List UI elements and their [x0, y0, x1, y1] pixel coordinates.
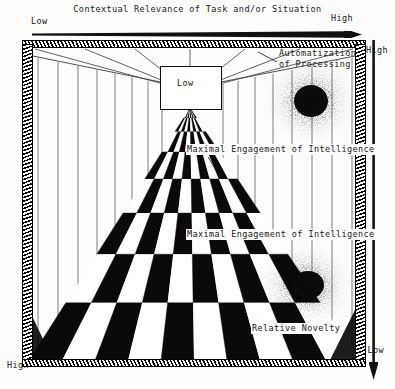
maximal-engagement-label-lower: Maximal Engagement of Intelligence — [186, 229, 376, 240]
maximal-engagement-label-upper: Maximal Engagement of Intelligence — [186, 144, 376, 155]
automatization-label: Automatization of Processing — [278, 48, 357, 70]
automatization-blob — [265, 59, 357, 143]
ceiling-beam — [22, 40, 366, 48]
left-pillar-beam — [22, 44, 33, 360]
floor-beam — [22, 359, 366, 367]
figure-canvas: Contextual Relevance of Task and/or Situ… — [0, 0, 395, 389]
automatization-line-1: Automatization — [279, 48, 356, 59]
automatization-line-2: of Processing — [279, 59, 356, 70]
vanishing-point-label: Low — [176, 78, 195, 89]
right-pillar-beam — [355, 44, 366, 366]
relative-novelty-label: Relative Novelty — [251, 323, 341, 334]
relative-novelty-blob — [257, 244, 353, 328]
